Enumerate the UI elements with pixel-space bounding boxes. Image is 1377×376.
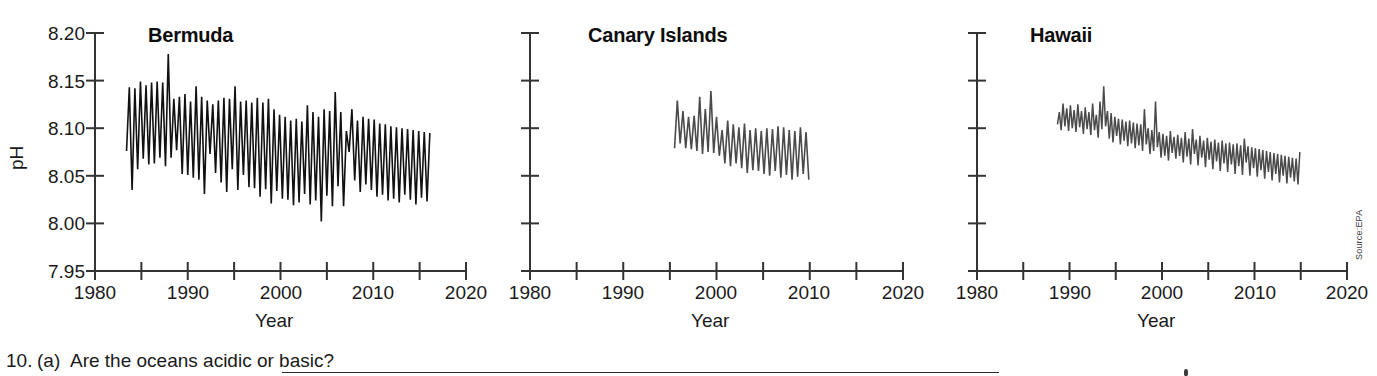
question-part-label: (a) — [37, 350, 60, 372]
worksheet-page: Bermuda pH 8.20 8.15 8.10 8.05 8.00 7.95… — [0, 0, 1377, 376]
hawaii-x-axis-label: Year — [1137, 310, 1175, 332]
y-tick-label-7-95: 7.95 — [10, 261, 85, 283]
bermuda-title: Bermuda — [148, 24, 233, 47]
question-number: 10. — [6, 350, 32, 372]
hawaii-x-tick-2020: 2020 — [1312, 282, 1377, 304]
bermuda-x-tick-2000: 2000 — [246, 282, 316, 304]
y-tick-label-8-00: 8.00 — [10, 213, 85, 235]
canary-x-tick-2000: 2000 — [681, 282, 751, 304]
chart-panel-hawaii: Hawaii 1980 1990 2000 2010 2020 Year Sou… — [917, 0, 1377, 310]
chart-panel-bermuda: Bermuda pH 8.20 8.15 8.10 8.05 8.00 7.95… — [0, 0, 470, 310]
page-artifact-mark — [1184, 369, 1188, 376]
y-tick-label-8-15: 8.15 — [10, 71, 85, 93]
question-text: Are the oceans acidic or basic? — [70, 350, 334, 372]
canary-x-tick-1990: 1990 — [588, 282, 658, 304]
bermuda-data-line — [127, 54, 430, 222]
canary-x-tick-2010: 2010 — [774, 282, 844, 304]
source-credit-epa: Source:EPA — [1354, 210, 1364, 260]
canary-axes — [530, 33, 903, 271]
hawaii-x-tick-1980: 1980 — [942, 282, 1012, 304]
hawaii-x-tick-2010: 2010 — [1220, 282, 1290, 304]
hawaii-data-line — [1057, 86, 1299, 184]
hawaii-x-tick-1990: 1990 — [1035, 282, 1105, 304]
chart-panel-canary-islands: Canary Islands 1980 1990 2000 2010 2020 … — [470, 0, 917, 310]
hawaii-title: Hawaii — [1030, 24, 1092, 47]
y-tick-label-8-10: 8.10 — [10, 118, 85, 140]
canary-islands-title: Canary Islands — [588, 24, 728, 47]
hawaii-x-tick-2000: 2000 — [1127, 282, 1197, 304]
bermuda-x-tick-1980: 1980 — [60, 282, 130, 304]
bermuda-x-tick-1990: 1990 — [153, 282, 223, 304]
bermuda-x-tick-2010: 2010 — [338, 282, 408, 304]
canary-x-tick-1980: 1980 — [495, 282, 565, 304]
bermuda-x-axis-label: Year — [255, 310, 293, 332]
canary-data-line — [675, 91, 809, 180]
y-tick-label-8-05: 8.05 — [10, 166, 85, 188]
hawaii-plot-svg — [917, 0, 1377, 310]
answer-blank-line[interactable] — [282, 372, 999, 373]
canary-x-axis-label: Year — [691, 310, 729, 332]
y-tick-label-8-20: 8.20 — [10, 23, 85, 45]
